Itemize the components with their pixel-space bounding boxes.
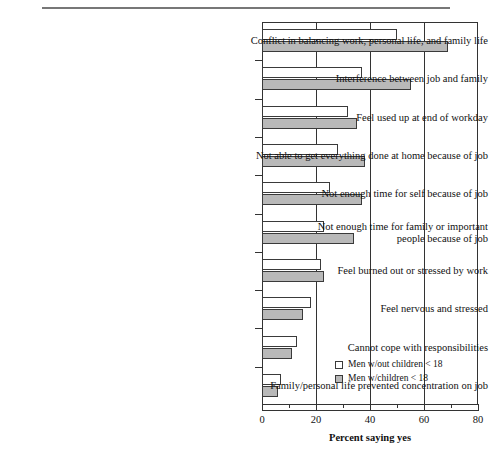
y-axis-tick — [255, 290, 262, 291]
legend-swatch-open — [335, 361, 343, 369]
y-axis-tick — [255, 367, 262, 368]
y-axis-tick — [255, 99, 262, 100]
x-axis-tick-label: 40 — [355, 414, 385, 425]
x-axis-tick — [370, 404, 371, 411]
y-axis-tick — [255, 137, 262, 138]
legend-label: Men w/out children < 18 — [348, 358, 443, 371]
y-axis-tick — [255, 252, 262, 253]
caption-rule — [42, 7, 450, 9]
legend-item: Men w/out children < 18 — [335, 358, 443, 371]
x-axis-tick-label: 20 — [301, 414, 331, 425]
category-label: Not enough time for self because of job — [238, 188, 496, 200]
category-label: Feel used up at end of workday — [238, 112, 496, 124]
y-axis-tick — [255, 175, 262, 176]
x-axis-minor-tick — [451, 404, 452, 408]
x-axis-tick — [424, 404, 425, 411]
x-axis-minor-tick — [343, 404, 344, 408]
x-axis-tick — [316, 404, 317, 411]
category-label: Conflict in balancing work, personal lif… — [238, 35, 496, 47]
category-label: Not enough time for family or important … — [238, 221, 496, 245]
category-label: Feel nervous and stressed — [238, 303, 496, 315]
category-label: Interference between job and family — [238, 73, 496, 85]
legend-swatch-solid — [335, 375, 343, 383]
x-axis-tick-label: 60 — [409, 414, 439, 425]
x-axis-tick — [478, 404, 479, 411]
x-axis-title: Percent saying yes — [262, 432, 478, 443]
figure-container: Conflict in balancing work, personal lif… — [0, 0, 496, 451]
y-axis-tick — [255, 328, 262, 329]
category-label: Feel burned out or stressed by work — [238, 265, 496, 277]
legend-label: Men w/children < 18 — [348, 372, 428, 385]
x-axis-minor-tick — [289, 404, 290, 408]
legend-item: Men w/children < 18 — [335, 372, 443, 385]
category-label: Not able to get everything done at home … — [238, 150, 496, 162]
y-axis-tick — [255, 214, 262, 215]
x-axis-tick-label: 0 — [247, 414, 277, 425]
y-axis-tick — [255, 60, 262, 61]
legend: Men w/out children < 18Men w/children < … — [335, 358, 443, 386]
x-axis-tick — [262, 404, 263, 411]
x-axis-tick-label: 80 — [463, 414, 493, 425]
category-label: Cannot cope with responsibilities — [238, 342, 496, 354]
x-axis-minor-tick — [397, 404, 398, 408]
